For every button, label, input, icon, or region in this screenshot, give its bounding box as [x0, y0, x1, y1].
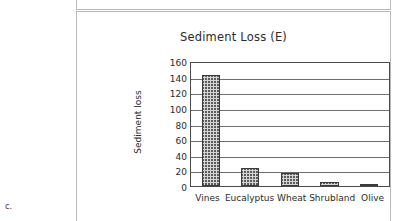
y-axis-title: Sediment loss [133, 82, 143, 162]
y-axis-tick-label: 60 [176, 136, 187, 146]
y-axis-tick-label: 160 [170, 58, 187, 68]
y-axis-tick-label: 120 [170, 89, 187, 99]
top-strip-box [76, 0, 391, 10]
bar [360, 184, 378, 186]
x-axis-tick-label: Shrubland [309, 193, 355, 203]
screenshot-root: c. Sediment Loss (E) Sediment loss 16014… [0, 0, 397, 221]
bar-slot [310, 63, 350, 186]
figure-part-label: c. [5, 202, 12, 211]
y-axis-tick-label: 80 [176, 121, 187, 131]
bar [281, 173, 299, 186]
bar-slot [191, 63, 231, 186]
x-axis-tick-label: Eucalyptus [225, 193, 274, 203]
y-axis-tick-label: 20 [176, 167, 187, 177]
bar-series [191, 63, 389, 186]
bar [241, 168, 259, 186]
y-axis-tick-label: 40 [176, 152, 187, 162]
bar [320, 182, 338, 186]
bar-slot [270, 63, 310, 186]
bar-slot [231, 63, 271, 186]
x-axis-tick-label: Olive [355, 193, 390, 203]
plot-area: Sediment loss 160140120100806040200 [190, 62, 390, 187]
x-axis-tick-label: Vines [190, 193, 225, 203]
bar [202, 75, 220, 186]
y-axis-tick-label: 140 [170, 74, 187, 84]
x-axis-tick-labels: VinesEucalyptusWheatShrublandOlive [190, 193, 390, 203]
y-axis-tick-label: 0 [181, 183, 187, 193]
chart-container: Sediment Loss (E) Sediment loss 16014012… [76, 11, 391, 221]
x-axis-tick-label: Wheat [274, 193, 309, 203]
bar-slot [349, 63, 389, 186]
y-axis-tick-label: 100 [170, 105, 187, 115]
chart-title: Sediment Loss (E) [77, 30, 390, 44]
